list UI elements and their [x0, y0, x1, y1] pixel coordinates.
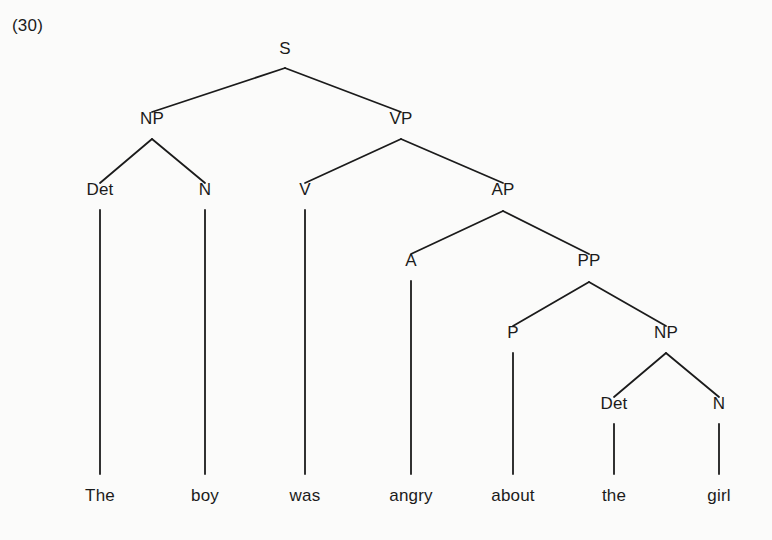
tree-node-np1: NP: [140, 110, 164, 127]
tree-node-p: P: [507, 324, 519, 341]
tree-branch-np1-n1: [152, 139, 205, 183]
tree-leaf-w3: was: [290, 487, 321, 504]
tree-leaf-w1: The: [85, 487, 115, 504]
tree-leaf-w7: girl: [707, 487, 730, 504]
tree-leaf-w4: angry: [389, 487, 433, 504]
tree-branch-ap-pp: [503, 211, 589, 254]
tree-node-v: V: [299, 181, 311, 198]
tree-node-ap: AP: [491, 181, 514, 198]
tree-branch-pp-p: [513, 282, 589, 326]
tree-leaf-w6: the: [602, 487, 626, 504]
tree-branch-s-np1: [152, 68, 285, 112]
tree-node-s: S: [279, 40, 291, 57]
tree-node-n2: N: [713, 395, 725, 412]
tree-branch-np1-det1: [100, 139, 152, 183]
tree-edge-group: [100, 68, 719, 474]
tree-branch-np2-det2: [614, 353, 666, 397]
tree-branch-vp-v: [305, 139, 401, 183]
tree-node-np2: NP: [654, 324, 678, 341]
tree-node-pp: PP: [577, 252, 600, 269]
tree-edges-canvas: [0, 0, 772, 540]
tree-node-n1: N: [199, 181, 211, 198]
tree-branch-vp-ap: [401, 139, 503, 183]
tree-node-det1: Det: [86, 181, 113, 198]
tree-branch-s-vp: [285, 68, 401, 112]
tree-leaf-w5: about: [491, 487, 535, 504]
tree-node-vp: VP: [389, 110, 412, 127]
tree-branch-ap-a: [411, 211, 503, 254]
tree-leaf-w2: boy: [191, 487, 219, 504]
tree-branch-np2-n2: [666, 353, 719, 397]
tree-branch-pp-np2: [589, 282, 666, 326]
tree-node-det2: Det: [600, 395, 627, 412]
syntax-tree-figure: (30) SNPVPDetNVAPAPPPNPDetN Theboywasang…: [0, 0, 772, 540]
tree-node-a: A: [405, 252, 417, 269]
